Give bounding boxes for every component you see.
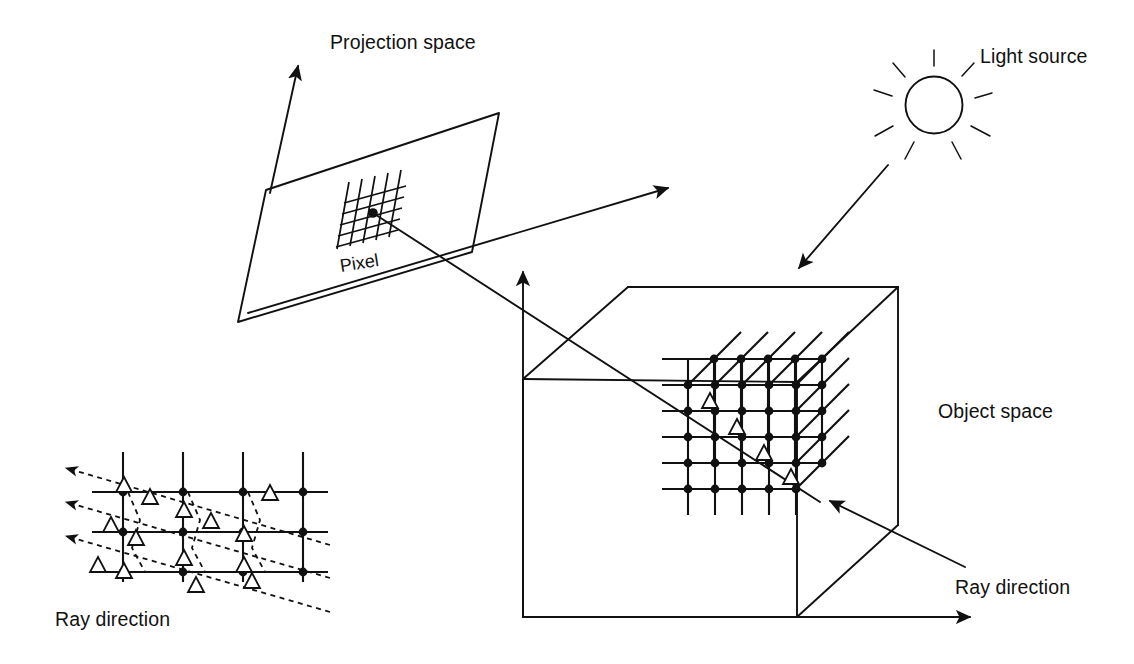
object-space-label: Object space — [938, 400, 1053, 422]
voxel-block-group — [662, 332, 849, 515]
box-front-face — [523, 379, 797, 617]
ray-direction-inset-group: Ray direction — [55, 452, 330, 630]
box-right-bottom-edge — [797, 525, 898, 617]
light-source-group: Light source — [799, 45, 1087, 268]
light-source-disc — [906, 77, 963, 134]
projection-up-axis-arrow — [270, 66, 298, 193]
projection-depth-axis-arrow — [248, 188, 668, 313]
box-top-left-edge — [523, 287, 628, 379]
light-beam-arrow — [799, 165, 888, 268]
figure-canvas: Projection space Pixel — [0, 0, 1134, 664]
inset-ray-1 — [66, 468, 330, 545]
light-source-rays — [874, 50, 992, 159]
ray-direction-right-label: Ray direction — [955, 576, 1070, 598]
projection-space-group: Projection space Pixel — [238, 31, 499, 322]
inset-ray-3 — [66, 536, 330, 612]
ray-direction-left-label: Ray direction — [55, 608, 170, 630]
light-source-label: Light source — [980, 45, 1087, 67]
box-front-top-edge — [523, 379, 797, 382]
ray-tracing-diagram: Projection space Pixel — [0, 0, 1134, 664]
primary-ray-line — [373, 213, 820, 502]
projection-space-label: Projection space — [330, 31, 476, 53]
ray-direction-right-group: Ray direction — [830, 501, 1070, 598]
object-space-box: Object space — [523, 272, 1053, 617]
pixel-label: Pixel — [338, 250, 380, 276]
